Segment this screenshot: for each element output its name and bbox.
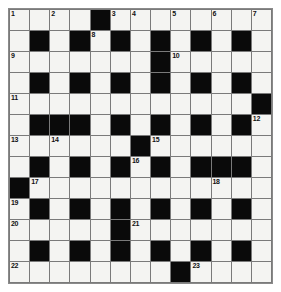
grid-open-cell[interactable] [30,52,49,72]
grid-open-cell[interactable] [91,73,110,93]
grid-open-cell[interactable] [91,136,110,156]
grid-open-cell[interactable] [70,10,89,30]
grid-open-cell[interactable] [70,136,89,156]
grid-open-cell[interactable] [91,94,110,114]
grid-open-cell[interactable] [50,157,69,177]
grid-open-cell[interactable] [252,220,271,240]
grid-open-cell[interactable]: 16 [131,157,150,177]
grid-open-cell[interactable]: 1 [10,10,29,30]
grid-open-cell[interactable] [252,178,271,198]
grid-open-cell[interactable] [212,73,231,93]
grid-open-cell[interactable] [252,241,271,261]
grid-open-cell[interactable] [131,31,150,51]
grid-open-cell[interactable] [10,31,29,51]
grid-open-cell[interactable] [131,262,150,282]
grid-open-cell[interactable] [131,178,150,198]
grid-open-cell[interactable] [252,73,271,93]
grid-open-cell[interactable] [232,94,251,114]
grid-open-cell[interactable]: 7 [252,10,271,30]
grid-open-cell[interactable] [212,241,231,261]
grid-open-cell[interactable] [91,241,110,261]
grid-open-cell[interactable] [212,52,231,72]
grid-open-cell[interactable] [91,178,110,198]
grid-open-cell[interactable] [232,178,251,198]
grid-open-cell[interactable] [50,220,69,240]
grid-open-cell[interactable] [232,52,251,72]
grid-open-cell[interactable] [30,262,49,282]
grid-open-cell[interactable]: 21 [131,220,150,240]
grid-open-cell[interactable] [212,220,231,240]
grid-open-cell[interactable] [131,199,150,219]
grid-open-cell[interactable] [50,241,69,261]
grid-open-cell[interactable] [212,94,231,114]
grid-open-cell[interactable] [191,178,210,198]
grid-open-cell[interactable] [171,220,190,240]
grid-open-cell[interactable] [131,115,150,135]
grid-open-cell[interactable] [252,136,271,156]
crossword-grid[interactable]: 1234567891011121314151617181920212223 [9,9,272,283]
grid-open-cell[interactable]: 5 [171,10,190,30]
grid-open-cell[interactable]: 15 [151,136,170,156]
grid-open-cell[interactable]: 4 [131,10,150,30]
grid-open-cell[interactable] [70,220,89,240]
grid-open-cell[interactable] [171,157,190,177]
grid-open-cell[interactable] [131,94,150,114]
grid-open-cell[interactable]: 12 [252,115,271,135]
grid-open-cell[interactable]: 14 [50,136,69,156]
grid-open-cell[interactable] [191,94,210,114]
grid-open-cell[interactable] [171,115,190,135]
grid-open-cell[interactable] [50,178,69,198]
grid-open-cell[interactable]: 10 [171,52,190,72]
grid-open-cell[interactable] [111,178,130,198]
grid-open-cell[interactable]: 22 [10,262,29,282]
grid-open-cell[interactable] [252,31,271,51]
grid-open-cell[interactable]: 17 [30,178,49,198]
grid-open-cell[interactable] [232,220,251,240]
grid-open-cell[interactable] [70,178,89,198]
grid-open-cell[interactable] [151,220,170,240]
grid-open-cell[interactable] [91,115,110,135]
grid-open-cell[interactable] [252,157,271,177]
grid-open-cell[interactable] [171,31,190,51]
grid-open-cell[interactable]: 20 [10,220,29,240]
grid-open-cell[interactable] [212,199,231,219]
grid-open-cell[interactable] [50,52,69,72]
grid-open-cell[interactable] [70,94,89,114]
grid-open-cell[interactable]: 11 [10,94,29,114]
grid-open-cell[interactable] [171,178,190,198]
grid-open-cell[interactable] [252,52,271,72]
grid-open-cell[interactable] [212,262,231,282]
grid-open-cell[interactable] [171,136,190,156]
grid-open-cell[interactable] [30,220,49,240]
grid-open-cell[interactable]: 6 [212,10,231,30]
grid-open-cell[interactable] [252,262,271,282]
grid-open-cell[interactable] [10,241,29,261]
grid-open-cell[interactable]: 9 [10,52,29,72]
grid-open-cell[interactable] [171,199,190,219]
grid-open-cell[interactable] [191,136,210,156]
grid-open-cell[interactable] [10,115,29,135]
grid-open-cell[interactable] [50,199,69,219]
grid-open-cell[interactable] [30,136,49,156]
grid-open-cell[interactable]: 8 [91,31,110,51]
grid-open-cell[interactable] [91,199,110,219]
grid-open-cell[interactable] [91,52,110,72]
grid-open-cell[interactable] [232,262,251,282]
grid-open-cell[interactable] [50,262,69,282]
grid-open-cell[interactable] [111,94,130,114]
grid-open-cell[interactable] [232,10,251,30]
grid-open-cell[interactable] [171,241,190,261]
grid-open-cell[interactable] [212,31,231,51]
grid-open-cell[interactable] [212,115,231,135]
grid-open-cell[interactable] [111,136,130,156]
grid-open-cell[interactable] [131,241,150,261]
grid-open-cell[interactable] [50,73,69,93]
grid-open-cell[interactable] [10,157,29,177]
grid-open-cell[interactable] [10,73,29,93]
grid-open-cell[interactable] [111,52,130,72]
grid-open-cell[interactable] [151,262,170,282]
grid-open-cell[interactable] [252,199,271,219]
grid-open-cell[interactable] [191,10,210,30]
grid-open-cell[interactable] [191,220,210,240]
grid-open-cell[interactable] [70,262,89,282]
